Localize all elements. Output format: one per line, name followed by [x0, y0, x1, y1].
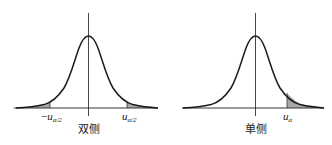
critical-value-label: uα: [283, 111, 292, 124]
bell-curve: [183, 36, 324, 108]
label-subscript: α: [289, 116, 293, 124]
two-sided-caption: 双侧: [78, 124, 100, 135]
bell-curve: [16, 36, 158, 108]
two-sided-panel: [14, 13, 158, 116]
label-subscript: α/2: [53, 116, 62, 124]
one-sided-panel: [182, 13, 324, 116]
pos-critical-value-label: uα/2: [122, 111, 137, 124]
label-subscript: α/2: [128, 116, 137, 124]
neg-critical-value-label: −uα/2: [41, 111, 62, 124]
one-sided-caption: 单侧: [245, 124, 267, 135]
